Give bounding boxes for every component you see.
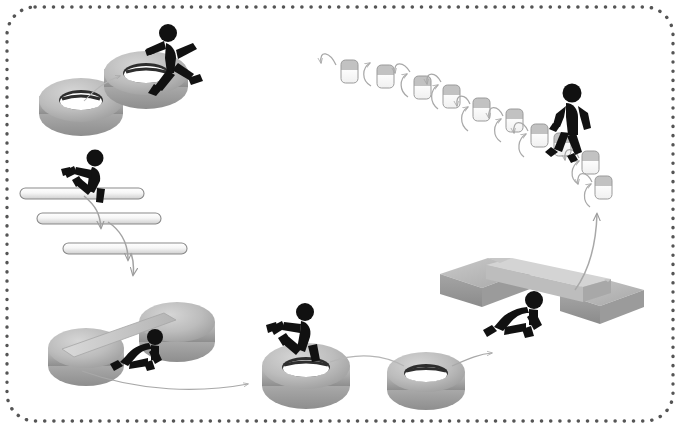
block [531, 124, 548, 147]
block [595, 176, 612, 199]
obstacle-tire-pair-upper-left [39, 51, 188, 136]
arrow-bar3-crawl [131, 253, 134, 275]
block [377, 65, 394, 88]
block [506, 109, 523, 132]
tire [262, 343, 350, 409]
block [414, 76, 431, 99]
block [582, 151, 599, 174]
obstacle-bridge-platform [440, 214, 644, 324]
obstacle-hurdle-bars [20, 188, 187, 275]
arrow-block-chain [321, 54, 592, 207]
obstacle-course-scene [0, 0, 680, 428]
block [341, 60, 358, 83]
block [473, 98, 490, 121]
illustration-canvas [0, 0, 680, 428]
tire [387, 352, 465, 410]
